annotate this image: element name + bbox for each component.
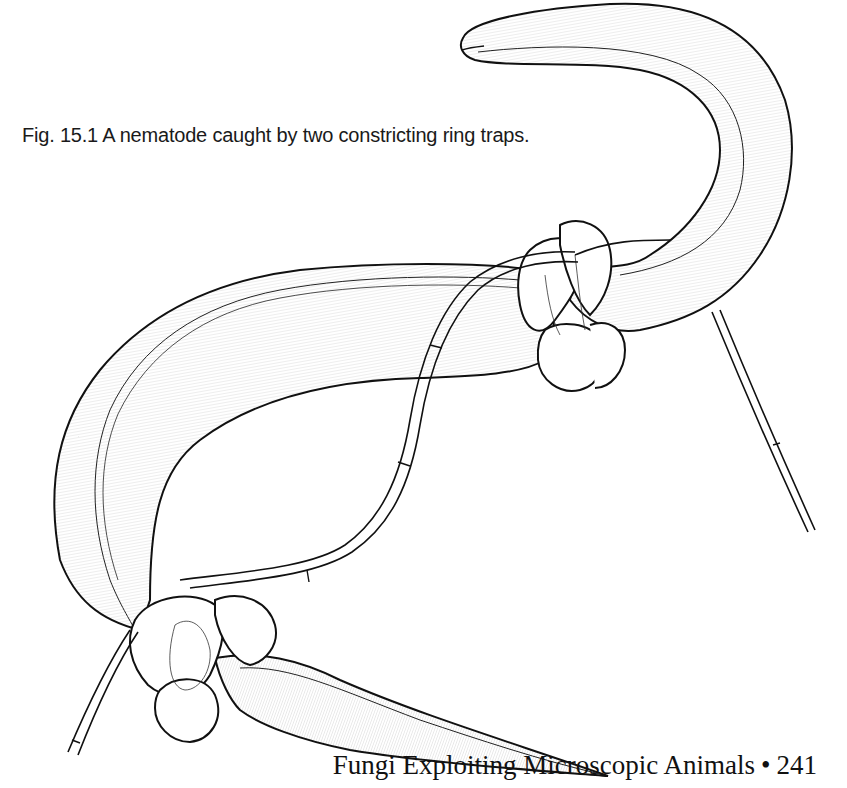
- bullet-separator: •: [761, 750, 770, 780]
- page-footer: Fungi Exploiting Microscopic Animals•241: [333, 750, 817, 781]
- figure-caption: Fig. 15.1 A nematode caught by two const…: [22, 124, 529, 147]
- running-title: Fungi Exploiting Microscopic Animals: [333, 750, 755, 780]
- book-page: Fig. 15.1 A nematode caught by two const…: [0, 0, 847, 788]
- nematode-illustration: [0, 0, 847, 788]
- page-number: 241: [777, 750, 818, 780]
